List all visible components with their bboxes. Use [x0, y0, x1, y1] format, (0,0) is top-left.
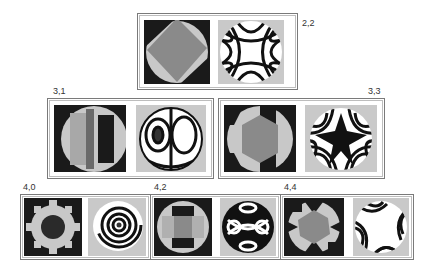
phase-map-3-3 [224, 105, 296, 172]
panel-4-2 [150, 194, 281, 260]
panel-3-3 [218, 98, 385, 179]
fringe-map-3-1 [136, 105, 206, 172]
panel-label-4-4: 4,4 [284, 182, 297, 192]
phase-map-4-0 [24, 198, 82, 256]
fringe-map-4-2 [220, 198, 276, 256]
phase-map-3-1 [54, 105, 126, 172]
panel-4-0 [20, 194, 151, 260]
phase-map-4-4 [284, 198, 344, 256]
panel-4-4 [280, 194, 414, 260]
panel-label-4-2: 4,2 [154, 182, 167, 192]
panel-label-2-2: 2,2 [302, 18, 315, 28]
phase-map-4-2 [154, 198, 212, 256]
fringe-map-4-4 [353, 198, 409, 256]
fringe-map-2-2 [218, 20, 284, 84]
phase-map-2-2 [144, 20, 210, 84]
fringe-map-3-3 [305, 105, 377, 172]
panel-label-3-3: 3,3 [368, 86, 381, 96]
panel-2-2 [137, 13, 298, 90]
panel-label-3-1: 3,1 [53, 86, 66, 96]
fringe-map-4-0 [88, 198, 146, 256]
panel-3-1 [47, 98, 214, 179]
panel-label-4-0: 4,0 [23, 182, 36, 192]
